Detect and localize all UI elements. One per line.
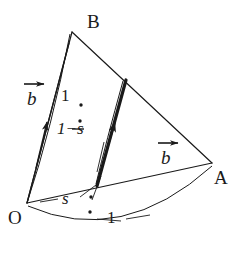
vertex-label-b: B (87, 12, 100, 31)
edge-oa (27, 163, 212, 203)
ratio-dot-bottom-upper (89, 195, 92, 198)
leader-ratio-one-right (126, 215, 150, 219)
ratio-label-bottom-first: s (62, 190, 69, 207)
vector-b-right-label: b (161, 148, 171, 167)
arrowhead-ob-stub (36, 122, 47, 168)
arrowhead-pq-stub (103, 122, 115, 164)
diagram-canvas (0, 0, 248, 254)
edge-ba (72, 32, 212, 163)
vertex-label-o: O (8, 208, 22, 227)
ratio-dot-bottom-lower (88, 210, 91, 213)
ratio-label-bottom-second: 1 (107, 209, 116, 226)
arc-pq-curve (96, 81, 123, 184)
vector-diagram-figure: B O A b b 1 1−s s 1 (0, 0, 248, 254)
ratio-label-top-second: 1−s (57, 120, 84, 137)
ratio-label-top-first: 1 (61, 87, 70, 104)
vector-b-left-label: b (27, 89, 37, 108)
ratio-dot-top-upper (79, 103, 82, 106)
arc-oa-curve (28, 166, 212, 220)
division-point-tick (92, 176, 101, 200)
vertex-label-a: A (214, 168, 228, 187)
